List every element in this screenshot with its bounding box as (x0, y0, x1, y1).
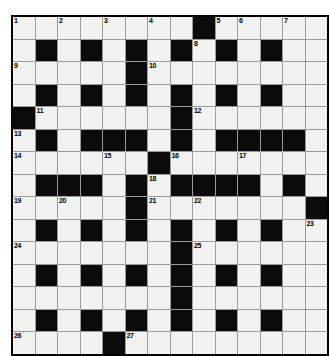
crossword-cell[interactable] (306, 152, 328, 174)
crossword-cell[interactable]: 13 (13, 130, 35, 152)
crossword-cell[interactable] (58, 152, 80, 174)
crossword-cell[interactable] (193, 130, 215, 152)
crossword-cell[interactable] (13, 287, 35, 309)
crossword-cell[interactable] (216, 152, 238, 174)
crossword-cell[interactable] (58, 242, 80, 264)
crossword-cell[interactable] (261, 17, 283, 39)
crossword-cell[interactable] (306, 310, 328, 332)
crossword-cell[interactable] (283, 220, 305, 242)
crossword-cell[interactable] (193, 310, 215, 332)
crossword-cell[interactable] (36, 332, 58, 354)
crossword-cell[interactable] (238, 62, 260, 84)
crossword-cell[interactable] (193, 332, 215, 354)
crossword-cell[interactable]: 5 (216, 17, 238, 39)
crossword-cell[interactable]: 12 (193, 107, 215, 129)
crossword-cell[interactable] (36, 197, 58, 219)
crossword-cell[interactable] (238, 310, 260, 332)
crossword-cell[interactable] (216, 197, 238, 219)
crossword-cell[interactable] (58, 332, 80, 354)
crossword-cell[interactable]: 7 (283, 17, 305, 39)
crossword-cell[interactable] (58, 40, 80, 62)
crossword-cell[interactable] (81, 107, 103, 129)
crossword-cell[interactable] (306, 85, 328, 107)
crossword-cell[interactable] (103, 310, 125, 332)
crossword-cell[interactable]: 6 (238, 17, 260, 39)
crossword-cell[interactable]: 9 (13, 62, 35, 84)
crossword-cell[interactable]: 17 (238, 152, 260, 174)
crossword-cell[interactable] (283, 242, 305, 264)
crossword-cell[interactable] (103, 40, 125, 62)
crossword-cell[interactable] (148, 85, 170, 107)
crossword-cell[interactable] (193, 220, 215, 242)
crossword-cell[interactable] (238, 332, 260, 354)
crossword-cell[interactable] (58, 85, 80, 107)
crossword-cell[interactable] (13, 220, 35, 242)
crossword-cell[interactable] (238, 197, 260, 219)
crossword-cell[interactable]: 24 (13, 242, 35, 264)
crossword-cell[interactable]: 16 (171, 152, 193, 174)
crossword-cell[interactable]: 10 (148, 62, 170, 84)
crossword-cell[interactable] (306, 62, 328, 84)
crossword-cell[interactable] (216, 107, 238, 129)
crossword-cell[interactable] (103, 287, 125, 309)
crossword-cell[interactable] (58, 107, 80, 129)
crossword-cell[interactable] (283, 332, 305, 354)
crossword-cell[interactable] (36, 152, 58, 174)
crossword-cell[interactable] (306, 130, 328, 152)
crossword-cell[interactable] (261, 62, 283, 84)
crossword-cell[interactable] (36, 242, 58, 264)
crossword-cell[interactable]: 22 (193, 197, 215, 219)
crossword-cell[interactable] (81, 332, 103, 354)
crossword-cell[interactable] (193, 265, 215, 287)
crossword-cell[interactable] (261, 197, 283, 219)
crossword-cell[interactable] (13, 85, 35, 107)
crossword-cell[interactable] (148, 332, 170, 354)
crossword-cell[interactable] (238, 107, 260, 129)
crossword-cell[interactable] (148, 130, 170, 152)
crossword-cell[interactable] (238, 40, 260, 62)
crossword-cell[interactable] (283, 85, 305, 107)
crossword-cell[interactable] (103, 62, 125, 84)
crossword-cell[interactable]: 18 (148, 175, 170, 197)
crossword-cell[interactable] (58, 310, 80, 332)
crossword-cell[interactable] (238, 287, 260, 309)
crossword-cell[interactable] (148, 310, 170, 332)
crossword-cell[interactable] (36, 287, 58, 309)
crossword-cell[interactable] (81, 197, 103, 219)
crossword-cell[interactable] (283, 40, 305, 62)
crossword-cell[interactable] (126, 152, 148, 174)
crossword-cell[interactable]: 23 (306, 220, 328, 242)
crossword-cell[interactable] (261, 287, 283, 309)
crossword-cell[interactable] (216, 287, 238, 309)
crossword-cell[interactable] (81, 62, 103, 84)
crossword-cell[interactable] (103, 265, 125, 287)
crossword-cell[interactable] (148, 107, 170, 129)
crossword-cell[interactable] (261, 175, 283, 197)
crossword-cell[interactable] (283, 107, 305, 129)
crossword-cell[interactable] (103, 220, 125, 242)
crossword-cell[interactable] (148, 220, 170, 242)
crossword-cell[interactable] (306, 40, 328, 62)
crossword-cell[interactable] (148, 40, 170, 62)
crossword-cell[interactable] (81, 287, 103, 309)
crossword-cell[interactable]: 4 (148, 17, 170, 39)
crossword-cell[interactable] (261, 332, 283, 354)
crossword-cell[interactable] (36, 17, 58, 39)
crossword-cell[interactable] (306, 242, 328, 264)
crossword-cell[interactable] (81, 152, 103, 174)
crossword-cell[interactable] (13, 265, 35, 287)
crossword-grid[interactable]: 1234567891011121314151617181920212223242… (11, 15, 329, 356)
crossword-cell[interactable] (171, 62, 193, 84)
crossword-cell[interactable] (193, 62, 215, 84)
crossword-cell[interactable]: 20 (58, 197, 80, 219)
crossword-cell[interactable] (126, 287, 148, 309)
crossword-cell[interactable] (193, 152, 215, 174)
crossword-cell[interactable] (126, 17, 148, 39)
crossword-cell[interactable] (283, 265, 305, 287)
crossword-cell[interactable] (216, 242, 238, 264)
crossword-cell[interactable] (103, 242, 125, 264)
crossword-cell[interactable]: 2 (58, 17, 80, 39)
crossword-cell[interactable] (261, 107, 283, 129)
crossword-cell[interactable] (103, 107, 125, 129)
crossword-cell[interactable] (283, 197, 305, 219)
